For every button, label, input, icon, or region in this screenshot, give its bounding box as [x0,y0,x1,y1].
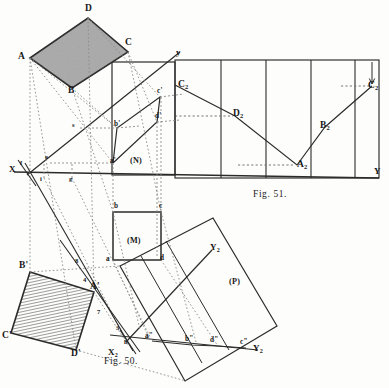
axis-label-y2-upper: Y2 [210,243,220,253]
trace-point-e: e [45,154,48,161]
dev-point-D2-letter: D [233,108,240,118]
vertex-label-a-prime: a' [110,158,116,165]
vertex-label-d: d [160,255,164,262]
fig50-rhombus-abcd [30,18,128,88]
fig50-projection-frontal [113,97,160,163]
trace-point-3: 3 [116,325,120,332]
dev-point-C2-left-letter: C [178,79,185,89]
vertex-label-C: C [125,38,132,48]
drawing-plate: A D C B B' A' D' C' b c d a a' b' c' d' … [0,0,389,388]
dev-point-B2-subscript: 2 [327,124,330,131]
vertex-label-a: a [106,256,110,263]
dev-point-C2-left-subscript: 2 [185,83,188,90]
region-label-m: (M) [127,237,141,245]
trace-point-8: 8 [75,258,79,265]
vertex-label-A: A [18,52,25,62]
vertex-label-a-dblprime: a" [145,333,153,340]
dev-point-A2: A2 [297,160,308,170]
axis-label-y2-upper-subscript: 2 [217,247,220,253]
vertex-label-B-prime: B' [19,261,28,271]
axis-label-y-right: Y [374,167,381,176]
dev-point-A2-letter: A [297,159,304,169]
trace-point-s: s [72,122,75,129]
vertex-label-c: c [159,203,162,210]
vertex-label-C-prime: C' [2,331,12,341]
fig51-development-polyline [175,85,372,165]
dev-point-C2-right-subscript: 2 [375,84,378,91]
region-label-p: (P) [229,278,240,286]
region-label-n: (N) [130,157,142,165]
fig50-aux-axis-y2-upper [126,250,212,342]
plate-linework [0,0,389,388]
vertex-label-b-prime: b' [114,121,120,128]
fig50-panel-n [112,62,175,175]
fig51-leader-lines [175,86,370,165]
fig50-rhombus-abcd-prime [11,272,94,350]
vertex-label-D-prime: D' [71,349,81,359]
trace-point-7: 7 [97,309,101,316]
fig51-panels [175,60,379,178]
axis-label-x: X [9,165,16,174]
axis-label-y2-lower: Y2 [253,344,263,354]
dev-point-D2: D2 [233,109,244,119]
fig50-construction-rays-lower [30,178,218,381]
dev-point-B2: B2 [320,121,330,131]
vertex-label-b-dblprime: b" [185,336,193,343]
trace-point-f: f [20,160,22,167]
vertex-label-c-prime: c' [157,88,163,95]
axis-label-y2-lower-letter: Y [253,343,260,353]
figure-caption-50: Fig. 50. [104,357,138,367]
figure-caption-51: Fig. 51. [253,190,287,200]
vertex-label-B: B [68,86,75,96]
axis-label-y-inclined: y [176,48,181,57]
vertex-label-D: D [85,4,92,14]
dev-point-A2-subscript: 2 [304,163,307,170]
vertex-label-d-prime: d' [155,113,161,120]
dev-point-D2-subscript: 2 [240,112,243,119]
trace-point-h: h [124,339,128,346]
axis-label-y2-lower-subscript: 2 [260,348,263,354]
vertex-label-b: b [114,203,118,210]
trace-point-i: i [40,176,42,183]
dev-point-C2-right: C2 [368,81,379,91]
dev-point-C2-left: C2 [178,80,189,90]
trace-point-g: g [69,176,73,183]
vertex-label-d-dblprime: d" [210,337,218,344]
vertex-label-c-dblprime: c" [240,339,248,346]
vertex-label-A-prime: A' [90,282,100,292]
trace-point-4: 4 [83,277,87,284]
axis-label-y2-upper-letter: Y [210,242,217,252]
dev-point-C2-right-letter: C [368,80,375,90]
